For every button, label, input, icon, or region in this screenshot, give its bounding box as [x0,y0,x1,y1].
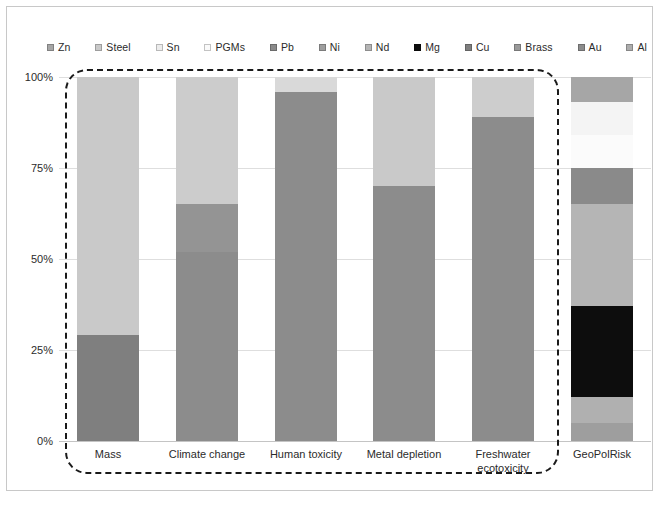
bar-segment-pgms[interactable] [472,77,534,117]
bar-segment-pgms[interactable] [571,135,633,168]
legend-item-steel[interactable]: Steel [95,41,130,53]
bar-segment-sn[interactable] [571,102,633,135]
legend-item-al[interactable]: Al [626,41,647,53]
x-axis-label-mass: Mass [54,447,162,461]
x-axis-label-geopolrisk: GeoPolRisk [548,447,656,461]
legend-item-label: PGMs [215,41,245,53]
legend-swatch-icon [95,44,102,51]
y-axis-tick-label: 100% [25,71,53,83]
bar-segment-pb[interactable] [571,168,633,204]
bar-segment-brass[interactable] [571,423,633,441]
bar-climate-change[interactable] [176,77,238,441]
legend-swatch-icon [514,44,521,51]
legend-item-cu[interactable]: Cu [465,41,490,53]
legend-item-label: Sn [167,41,180,53]
legend-swatch-icon [47,44,54,51]
bar-segment-au[interactable] [275,92,337,441]
gridline-0: 0% [59,441,651,442]
legend-swatch-icon [626,44,633,51]
x-axis-label-metal-depletion: Metal depletion [350,447,458,461]
legend-item-brass[interactable]: Brass [514,41,552,53]
bar-segment-al[interactable] [176,204,238,251]
x-axis-label-freshwater-ecotoxicity: Freshwater ecotoxicity [449,447,557,475]
legend-item-label: Nd [376,41,390,53]
bar-segment-au[interactable] [373,186,435,441]
legend-item-sn[interactable]: Sn [156,41,180,53]
bar-segment-au[interactable] [176,252,238,441]
gridline-75: 75% [59,168,651,169]
bar-segment-pgms[interactable] [373,77,435,186]
chart-legend: ZnSteelSnPGMsPbNiNdMgCuBrassAuAl [47,37,647,57]
y-axis-tick-label: 25% [31,344,53,356]
bar-metal-depletion[interactable] [373,77,435,441]
legend-item-ni[interactable]: Ni [319,41,340,53]
legend-item-label: Cu [476,41,490,53]
legend-swatch-icon [156,44,163,51]
legend-item-nd[interactable]: Nd [365,41,390,53]
gridline-100: 100% [59,77,651,78]
legend-swatch-icon [465,44,472,51]
legend-item-label: Pb [281,41,294,53]
bar-segment-steel[interactable] [77,77,139,335]
legend-item-au[interactable]: Au [578,41,602,53]
legend-item-pgms[interactable]: PGMs [204,41,245,53]
bar-segment-nd[interactable] [571,204,633,306]
legend-swatch-icon [204,44,211,51]
y-axis-tick-label: 75% [31,162,53,174]
bar-segment-pgms[interactable] [176,77,238,204]
chart-page: ZnSteelSnPGMsPbNiNdMgCuBrassAuAl 100%75%… [0,0,659,505]
y-axis-tick-label: 50% [31,253,53,265]
legend-item-label: Mg [425,41,440,53]
bar-segment-zn[interactable] [571,77,633,102]
bar-segment-pgms[interactable] [275,77,337,92]
legend-item-zn[interactable]: Zn [47,41,70,53]
bar-segment-al[interactable] [571,397,633,422]
bar-freshwater-ecotoxicity[interactable] [472,77,534,441]
x-axis-label-climate-change: Climate change [153,447,261,461]
legend-item-label: Al [637,41,647,53]
plot-area: 100%75%50%25%0% [59,77,651,441]
y-axis-tick-label: 0% [37,435,53,447]
legend-item-mg[interactable]: Mg [414,41,440,53]
gridline-25: 25% [59,350,651,351]
legend-item-label: Zn [58,41,70,53]
legend-item-label: Brass [525,41,552,53]
bar-human-toxicity[interactable] [275,77,337,441]
legend-swatch-icon [319,44,326,51]
bar-segment-mg[interactable] [571,306,633,397]
x-axis-label-human-toxicity: Human toxicity [252,447,360,461]
legend-swatch-icon [270,44,277,51]
figure-frame: ZnSteelSnPGMsPbNiNdMgCuBrassAuAl 100%75%… [6,6,653,491]
x-axis-labels: MassClimate changeHuman toxicityMetal de… [59,447,651,491]
legend-swatch-icon [365,44,372,51]
bar-segment-au[interactable] [472,117,534,441]
legend-swatch-icon [578,44,585,51]
legend-swatch-icon [414,44,421,51]
legend-item-label: Au [589,41,602,53]
bar-geopolrisk[interactable] [571,77,633,441]
gridline-50: 50% [59,259,651,260]
legend-item-label: Ni [330,41,340,53]
bar-mass[interactable] [77,77,139,441]
legend-item-label: Steel [106,41,130,53]
bar-segment-cu[interactable] [77,335,139,441]
legend-item-pb[interactable]: Pb [270,41,294,53]
